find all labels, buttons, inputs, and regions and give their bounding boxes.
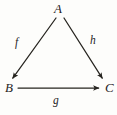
commutative-diagram-figure: A B C f g h: [0, 0, 117, 115]
node-label-A: A: [54, 2, 62, 15]
edge-arrow-h: [64, 18, 102, 78]
node-label-C: C: [105, 81, 114, 94]
edge-label-f: f: [15, 37, 18, 49]
edge-label-h: h: [90, 35, 96, 47]
edge-arrow-f: [13, 18, 56, 78]
edge-label-g: g: [53, 95, 59, 107]
node-label-B: B: [5, 81, 13, 94]
